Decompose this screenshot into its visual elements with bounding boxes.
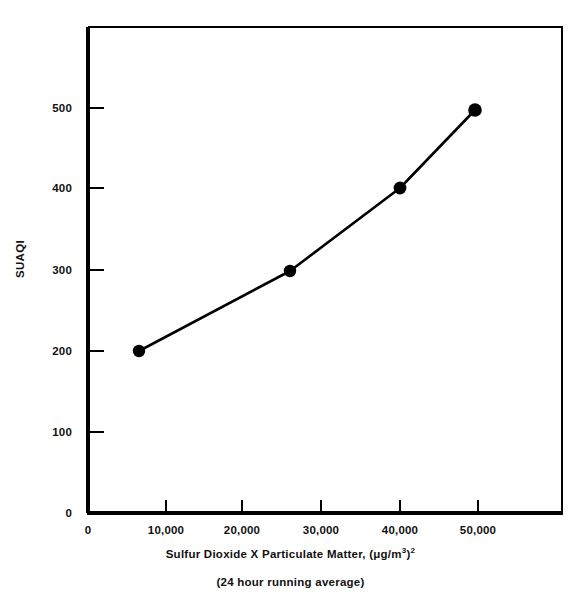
data-line-series-1: [139, 110, 475, 351]
x-tick-label-50000: 50,000: [460, 524, 496, 536]
y-tick-label-500: 500: [32, 102, 72, 114]
y-tick-label-200: 200: [32, 345, 72, 357]
y-tick-label-400: 400: [32, 182, 72, 194]
figure-container: 500 400 300 200 100 0 0 10,000 20,000 30…: [0, 0, 581, 604]
x-axis-title: Sulfur Dioxide X Particulate Matter, (μg…: [0, 546, 581, 560]
y-tick-label-100: 100: [32, 426, 72, 438]
y-tick-label-0: 0: [32, 507, 72, 519]
chart-plot-area: [0, 0, 581, 604]
axis-frame: [87, 27, 563, 513]
data-point-markers: [133, 103, 482, 357]
data-point-2: [284, 265, 296, 277]
x-axis-title-main: Sulfur Dioxide X Particulate Matter, (μg…: [166, 548, 402, 560]
x-tick-label-30000: 30,000: [303, 524, 339, 536]
x-axis-ticks: [166, 500, 478, 513]
x-axis-title-exponent-outer: 2: [411, 546, 416, 555]
x-tick-label-40000: 40,000: [382, 524, 418, 536]
y-axis-title: SUAQI: [14, 240, 26, 278]
data-point-3: [394, 182, 407, 195]
data-point-4: [468, 103, 482, 117]
y-axis-ticks: [88, 108, 104, 432]
x-tick-label-10000: 10,000: [148, 524, 184, 536]
x-axis-subtitle: (24 hour running average): [0, 576, 581, 588]
x-tick-label-20000: 20,000: [224, 524, 260, 536]
x-tick-label-0: 0: [85, 524, 92, 536]
y-tick-label-300: 300: [32, 264, 72, 276]
data-point-1: [133, 345, 145, 357]
